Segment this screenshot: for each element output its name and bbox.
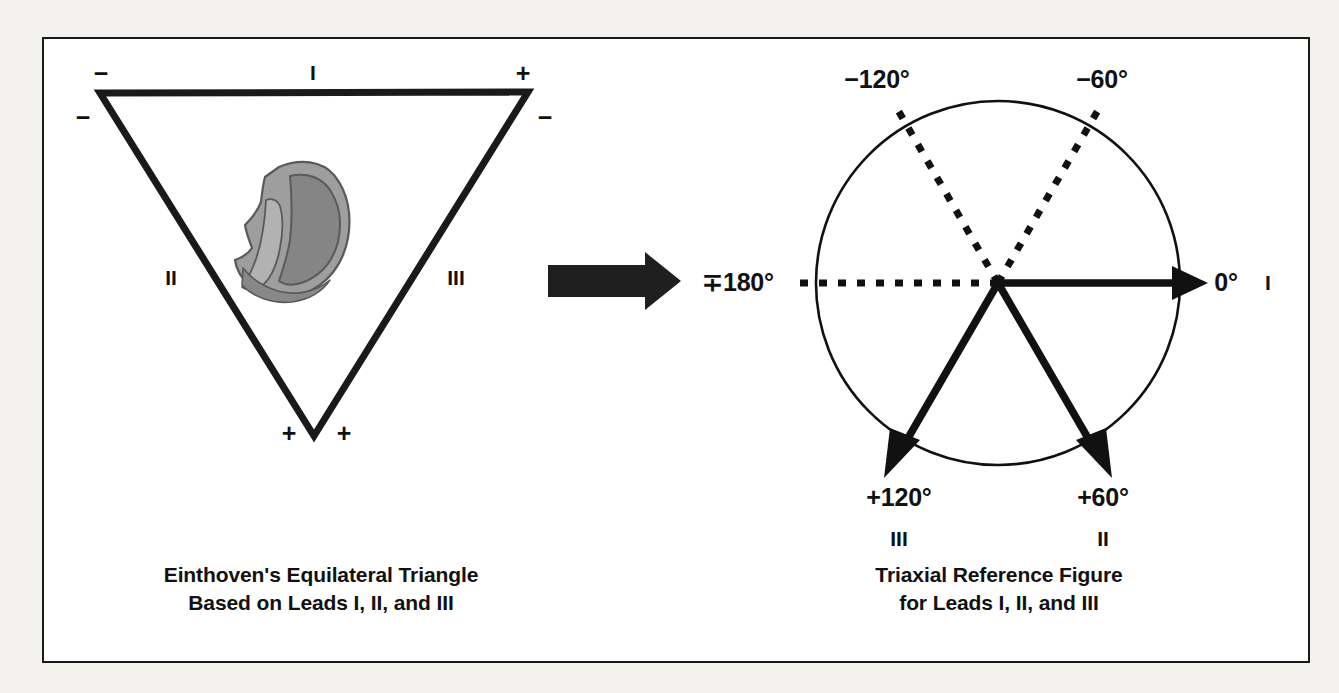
angle-label-0: 0°: [1214, 270, 1238, 295]
right-caption-line-1: Triaxial Reference Figure: [875, 561, 1122, 589]
lead-label-II-left: II: [165, 267, 177, 288]
polarity-left-vertex-above: −: [94, 61, 109, 86]
right-arrow-icon: [548, 252, 681, 310]
lead-label-I-top: I: [310, 62, 316, 83]
left-caption-line-1: Einthoven's Equilateral Triangle: [164, 561, 479, 589]
lead-label-I-axis: I: [1265, 272, 1271, 293]
angle-label-plus-120: +120°: [866, 485, 931, 510]
polarity-bottom-vertex-right: +: [337, 421, 352, 446]
angle-label-plus-60: +60°: [1077, 485, 1129, 510]
axis-ray-minus-60: [998, 105, 1101, 283]
lead-label-III-axis: III: [890, 528, 908, 549]
angle-label-180: ∓180°: [702, 270, 774, 295]
heart-cross-section-icon: [235, 162, 349, 302]
triaxial-reference-figure: [793, 101, 1208, 478]
polarity-bottom-vertex-left: +: [282, 421, 297, 446]
left-panel-caption: Einthoven's Equilateral Triangle Based o…: [164, 561, 479, 616]
right-arrow-shape: [548, 252, 681, 310]
right-caption-line-2: for Leads I, II, and III: [875, 589, 1122, 617]
polarity-right-vertex-above: +: [516, 61, 531, 86]
axis-arrow-plus-60-lead-II: [998, 283, 1112, 478]
figure-page: − I + − − II III + + −120° −60° ∓180° 0°…: [0, 0, 1339, 693]
axis-arrow-0-lead-I: [998, 266, 1208, 300]
polarity-left-vertex-below: −: [76, 105, 91, 130]
lead-label-III-right: III: [447, 267, 465, 288]
angle-label-minus-120: −120°: [844, 67, 909, 92]
left-caption-line-2: Based on Leads I, II, and III: [164, 589, 479, 617]
angle-label-minus-60: −60°: [1076, 67, 1128, 92]
right-panel-caption: Triaxial Reference Figure for Leads I, I…: [875, 561, 1122, 616]
axis-arrow-plus-120-lead-III: [884, 283, 998, 478]
lead-label-II-axis: II: [1097, 528, 1109, 549]
axis-ray-minus-120: [895, 105, 998, 283]
polarity-right-vertex-below: −: [538, 105, 553, 130]
